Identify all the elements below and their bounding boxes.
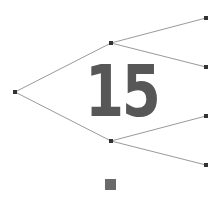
node-root (13, 90, 17, 94)
center-number-label: 15 (85, 58, 135, 124)
node-leaf-3 (204, 114, 208, 118)
node-mid-top (109, 41, 113, 45)
edge-midtop-leaf1 (111, 18, 206, 43)
node-leaf-4 (204, 163, 208, 167)
edge-midbottom-leaf4 (111, 141, 206, 165)
node-leaf-1 (204, 16, 208, 20)
node-mid-bottom (109, 139, 113, 143)
node-leaf-2 (204, 65, 208, 69)
square-marker (105, 179, 116, 190)
